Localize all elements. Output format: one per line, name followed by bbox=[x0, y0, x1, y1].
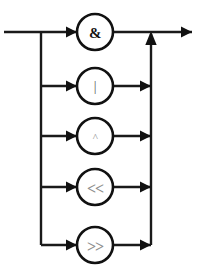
entry-arrow-head-icon bbox=[66, 27, 77, 38]
node-label-shift-left: << bbox=[87, 180, 104, 197]
branch-in-arrow-head-icon bbox=[66, 182, 77, 193]
branch-out-arrow-head-icon bbox=[140, 131, 151, 142]
exit-arrow-head-icon bbox=[181, 27, 192, 38]
railroad-diagram-canvas: & | ^ << >> bbox=[0, 0, 198, 278]
branch-out-arrow-head-icon bbox=[140, 240, 151, 251]
branch-in-arrow-head-icon bbox=[66, 131, 77, 142]
node-shift-left[interactable]: << bbox=[77, 169, 113, 205]
node-shift-right[interactable]: >> bbox=[77, 227, 113, 263]
node-bitwise-or[interactable]: | bbox=[77, 68, 113, 104]
railroad-diagram: & | ^ << >> bbox=[0, 0, 198, 278]
node-label-shift-right: >> bbox=[87, 238, 104, 255]
node-label-bitwise-and: & bbox=[89, 25, 101, 41]
branch-out-arrow-head-icon bbox=[140, 81, 151, 92]
branch-in-arrow-head-icon bbox=[66, 81, 77, 92]
branch-in-arrow-head-icon bbox=[66, 240, 77, 251]
node-label-bitwise-or: | bbox=[94, 79, 96, 94]
branch-out-arrow-head-icon bbox=[140, 182, 151, 193]
node-bitwise-and[interactable]: & bbox=[77, 14, 113, 50]
node-bitwise-xor[interactable]: ^ bbox=[77, 118, 113, 154]
